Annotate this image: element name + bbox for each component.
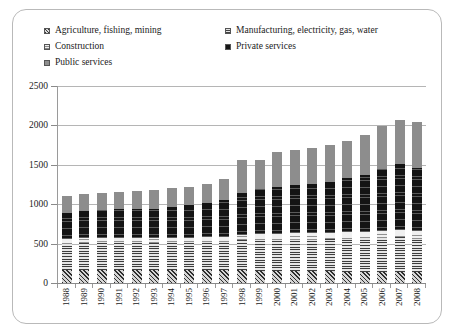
bar-segment [360,135,370,175]
bar-segment [377,272,387,283]
bar-segment [272,152,282,187]
bar-stack [395,120,405,283]
bar-segment [149,209,159,239]
y-axis-tick [51,244,57,245]
bar-segment [114,270,124,283]
x-axis [57,283,425,284]
bar-segment [342,272,352,283]
bar-segment [412,168,422,231]
bar-stack [360,135,370,283]
horizontal-stripes-swatch [225,28,231,34]
y-axis-tick-label: 500 [34,239,48,249]
bar-segment [184,242,194,270]
legend-item-label: Construction [55,42,104,52]
bar-segment [219,200,229,237]
bar-stack [290,150,300,283]
bar-stack [167,188,177,283]
bar-segment [342,239,352,272]
bar-segment [307,271,317,283]
legend-item-label: Agriculture, fishing, mining [55,26,162,36]
bar-segment [132,209,142,238]
bar-stack [62,196,72,283]
bar-segment [255,160,265,189]
bar-segment [62,196,72,213]
bar-segment [395,164,405,229]
bar-segment [377,169,387,231]
x-axis-tick [425,284,426,288]
bar-segment [167,242,177,270]
light-dotted-swatch [44,44,50,50]
bar-stack [149,190,159,283]
bar-segment [202,270,212,283]
bar-segment [255,240,265,271]
x-axis-tick-label: 2001 [289,288,299,306]
legend-item: Private services [225,42,296,52]
bar-segment [62,270,72,283]
bar-segment [97,210,107,238]
solid-black-swatch [225,44,231,50]
x-axis-tick-label: 2003 [324,288,334,306]
solid-gray-swatch [44,60,50,66]
bar-segment [167,207,177,238]
bar-segment [79,194,89,211]
bar-segment [219,242,229,271]
bar-segment [325,239,335,271]
bar-stack [342,141,352,283]
bar-segment [290,185,300,234]
bar-segment [132,242,142,269]
legend-item: Manufacturing, electricity, gas, water [225,26,378,36]
x-axis-tick-labels: 1988198919901991199219931994199519961997… [57,288,425,326]
y-axis-tick [51,125,57,126]
y-axis-tick-label: 1000 [29,199,48,209]
bar-segment [202,184,212,204]
bar-segment [395,272,405,283]
bar-segment [255,271,265,283]
bar-stack [202,184,212,283]
bar-segment [290,271,300,283]
legend-item-label: Public services [55,58,112,68]
bar-segment [255,189,265,234]
bar-segment [62,213,72,239]
y-axis-tick-label: 1500 [29,160,48,170]
x-axis-tick-label: 1996 [201,288,211,306]
bar-segment [395,120,405,164]
bar-segment [342,178,352,232]
legend-item-label: Manufacturing, electricity, gas, water [236,26,378,36]
bar-segment [97,270,107,283]
bar-segment [237,193,247,235]
bar-stack [184,187,194,283]
bar-stack [255,160,265,283]
bar-segment [97,193,107,210]
bar-segment [377,126,387,169]
bar-segment [184,270,194,283]
x-axis-tick-label: 1990 [96,288,106,306]
bar-stack [114,192,124,283]
x-axis-tick-label: 1998 [237,288,247,306]
bar-segment [184,205,194,237]
bar-stack [412,122,422,283]
chart-figure: Agriculture, fishing, miningConstruction… [0,0,455,331]
bar-stack [377,126,387,283]
x-axis-tick-label: 2000 [272,288,282,306]
bar-segment [342,141,352,178]
bar-segment [79,211,89,238]
x-axis-tick-label: 1995 [184,288,194,306]
bar-stack [237,160,247,283]
bar-segment [290,150,300,185]
x-axis-tick-label: 2008 [412,288,422,306]
legend-item: Agriculture, fishing, mining [44,26,162,36]
bar-segment [412,239,422,273]
bar-segment [325,271,335,283]
bar-segment [272,187,282,234]
bar-segment [360,175,370,232]
bar-segment [307,148,317,183]
bar-segment [272,271,282,283]
bar-segment [360,272,370,283]
legend-item: Construction [44,42,104,52]
bar-segment [237,270,247,283]
x-axis-tick-label: 2005 [359,288,369,306]
y-axis-tick-label: 0 [43,278,48,288]
x-axis-tick-label: 1991 [114,288,124,306]
bar-stack [132,191,142,283]
bar-segment [377,238,387,272]
